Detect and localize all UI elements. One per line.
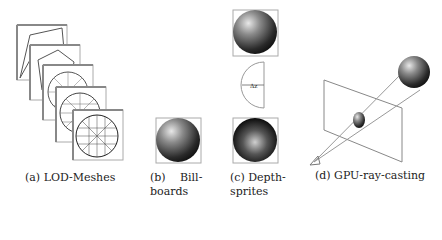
lod-meshes-illustration [17, 25, 123, 160]
caption-d: (d) GPU-ray-casting [315, 169, 425, 183]
caption-b-label: (b) [150, 171, 166, 185]
caption-c-line2: sprites [230, 185, 268, 199]
caption-b-word: Bill- [180, 171, 202, 185]
caption-c-line1: (c) Depth- [230, 171, 286, 185]
caption-b-line2: boards [150, 185, 188, 199]
ray-casting-illustration [310, 56, 430, 165]
caption-a: (a) LOD-Meshes [25, 171, 115, 185]
delta-z-label: Δz [250, 82, 258, 90]
billboard-illustration [156, 118, 201, 163]
